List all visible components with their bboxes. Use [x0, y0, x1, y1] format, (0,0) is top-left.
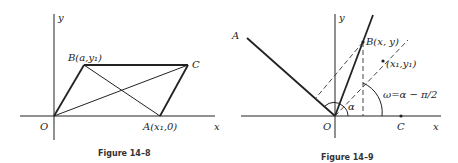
point-b-label: B(a,y₁) [67, 52, 102, 63]
point-a-label: A [231, 30, 239, 41]
diagonal-ba [84, 65, 160, 116]
omega-arc [363, 83, 382, 116]
line-oa [247, 38, 335, 116]
x-axis-label: x [214, 121, 220, 132]
point-a-label: A(x₁,0) [142, 121, 177, 132]
point-c [399, 114, 402, 117]
origin-label: O [40, 121, 48, 132]
side-ob [54, 65, 84, 116]
point-c-label: C [192, 59, 200, 70]
omega-equation-label: ω=α − π/2 [383, 89, 437, 100]
dashed-rotated-axis [335, 40, 408, 116]
figure-caption: Figure 14–8 [98, 149, 151, 158]
figure-14-8: y B(a,y₁) C O A(x₁,0) x Figure 14–8 [20, 12, 220, 158]
point-c-label: C [397, 121, 405, 132]
side-ca [160, 65, 188, 116]
figure-caption: Figure 14–9 [321, 153, 374, 162]
figures-canvas: y B(a,y₁) C O A(x₁,0) x Figure 14–8 y A … [0, 0, 458, 163]
y-axis-label: y [338, 12, 345, 23]
diagonal-oc [54, 65, 188, 116]
figure-14-9: y A B(x, y) (x₁,y₁) α ω=α − π/2 O C x Fi… [231, 12, 441, 162]
point-x1y1 [381, 59, 384, 62]
alpha-label: α [348, 101, 355, 112]
point-x1y1-label: (x₁,y₁) [386, 58, 416, 69]
x-axis-label: x [433, 121, 439, 132]
point-b-label: B(x, y) [365, 36, 399, 47]
origin-label: O [323, 121, 331, 132]
y-axis-label: y [57, 12, 64, 23]
point-b [361, 40, 364, 43]
dashed-perpendicular-oa [315, 42, 363, 99]
